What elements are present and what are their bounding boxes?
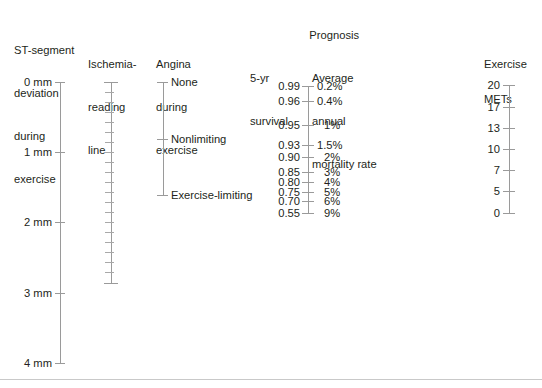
ischemia-tick <box>105 92 114 93</box>
survival-value-2: 0.96 <box>248 96 300 107</box>
mets-label-0: 0 <box>470 208 500 219</box>
ischemia-header-line-3: line <box>88 143 137 157</box>
ischemia-header-line-1: Ischemia- <box>88 57 137 71</box>
mortality-value-1: 0.2% <box>317 81 343 92</box>
ischemia-tick <box>105 142 114 143</box>
st-segment-header-line-3: during <box>14 129 74 143</box>
st-segment-column-header: ST-segment deviation during exercise <box>14 14 74 216</box>
mets-label-7: 7 <box>470 165 500 176</box>
st-segment-tick-2mm <box>55 222 65 223</box>
ischemia-tick <box>105 202 114 203</box>
mets-tick-13 <box>503 128 515 129</box>
survival-value-1: 0.99 <box>248 81 300 92</box>
ischemia-tick <box>105 262 114 263</box>
ischemia-tick <box>105 172 114 173</box>
ischemia-tick <box>105 102 114 103</box>
mets-label-10: 10 <box>470 144 500 155</box>
prognosis-tick-7 <box>302 182 314 183</box>
mets-tick-10 <box>503 149 515 150</box>
ischemia-tick <box>105 182 114 183</box>
mortality-value-9: 6% <box>317 196 347 207</box>
ischemia-tick <box>105 122 114 123</box>
prognosis-tick-1 <box>302 86 314 87</box>
mortality-value-5: 2% <box>317 152 347 163</box>
st-segment-tick-0mm <box>55 82 65 83</box>
st-segment-label-3mm: 3 mm <box>0 288 52 299</box>
st-segment-tick-4mm <box>55 363 65 364</box>
mortality-value-2: 0.4% <box>317 96 343 107</box>
mets-label-17: 17 <box>470 102 500 113</box>
prognosis-axis-line <box>308 86 309 213</box>
survival-value-9: 0.70 <box>248 196 300 207</box>
st-segment-tick-3mm <box>55 293 65 294</box>
survival-value-3: 0.95 <box>248 120 300 131</box>
st-segment-tick-1mm <box>55 152 65 153</box>
prognosis-tick-2 <box>302 101 314 102</box>
angina-header-line-1: Angina <box>156 57 198 71</box>
ischemia-tick <box>105 152 114 153</box>
mortality-value-10: 9% <box>317 208 347 219</box>
st-segment-label-0mm: 0 mm <box>0 77 52 88</box>
ischemia-tick-end-bottom <box>104 283 118 284</box>
prognosis-tick-5 <box>302 157 314 158</box>
angina-label-nonlimiting: Nonlimiting <box>171 134 226 145</box>
ischemia-tick <box>105 272 114 273</box>
st-segment-label-4mm: 4 mm <box>0 358 52 369</box>
ischemia-tick <box>105 232 114 233</box>
angina-tick-none <box>157 82 168 83</box>
mets-label-13: 13 <box>470 123 500 134</box>
mets-tick-7 <box>503 170 515 171</box>
st-segment-header-line-1: ST-segment <box>14 43 74 57</box>
mets-tick-17 <box>503 107 515 108</box>
prognosis-tick-8 <box>302 192 314 193</box>
prognosis-tick-9 <box>302 201 314 202</box>
prognosis-tick-6 <box>302 172 314 173</box>
survival-value-5: 0.90 <box>248 152 300 163</box>
ischemia-tick <box>105 112 114 113</box>
mets-tick-0 <box>503 213 515 214</box>
ischemia-tick <box>105 132 114 133</box>
survival-value-10: 0.55 <box>248 208 300 219</box>
nomogram-figure: ST-segment deviation during exercise Isc… <box>0 0 542 388</box>
prognosis-tick-10 <box>302 213 314 214</box>
ischemia-tick-end-top <box>104 82 118 83</box>
ischemia-tick <box>105 192 114 193</box>
ischemia-tick <box>105 242 114 243</box>
mortality-value-4: 1.5% <box>317 140 343 151</box>
ischemia-tick <box>105 252 114 253</box>
ischemia-tick <box>105 162 114 163</box>
angina-tick-nonlimiting <box>157 139 168 140</box>
mets-tick-20 <box>503 85 515 86</box>
prognosis-tick-3 <box>302 125 314 126</box>
st-segment-header-line-4: exercise <box>14 172 74 186</box>
ischemia-tick <box>105 222 114 223</box>
angina-label-exercise-limiting: Exercise-limiting <box>171 190 252 201</box>
mets-label-5: 5 <box>470 186 500 197</box>
prognosis-tick-4 <box>302 145 314 146</box>
ischemia-tick <box>105 212 114 213</box>
st-segment-label-2mm: 2 mm <box>0 217 52 228</box>
angina-tick-exercise-limiting <box>157 195 168 196</box>
prognosis-group-label: Prognosis <box>309 29 359 41</box>
footer-divider <box>0 379 542 380</box>
survival-value-4: 0.93 <box>248 140 300 151</box>
st-segment-label-1mm: 1 mm <box>0 147 52 158</box>
mets-label-20: 20 <box>470 80 500 91</box>
mets-tick-5 <box>503 191 515 192</box>
angina-label-none: None <box>171 77 198 88</box>
mortality-value-3: 1% <box>317 120 347 131</box>
